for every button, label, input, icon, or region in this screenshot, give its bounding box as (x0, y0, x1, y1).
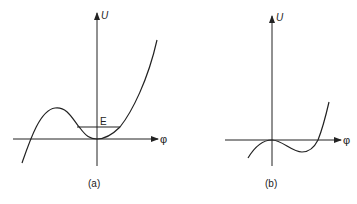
panel-a-energy-label: E (100, 116, 107, 127)
panel-b-y-axis-label: U (276, 12, 284, 23)
panel-a-x-axis-label: φ (160, 133, 167, 145)
panel-a-y-axis-label: U (101, 10, 109, 21)
panel-b: U φ (b) (225, 12, 350, 189)
panel-b-caption: (b) (265, 178, 277, 189)
diagram-canvas: E U φ (a) U φ (b) (0, 0, 357, 204)
panel-a-potential-curve (22, 40, 157, 163)
panel-b-x-axis-label: φ (343, 134, 350, 146)
panel-a-caption: (a) (88, 178, 100, 189)
panel-b-potential-curve (248, 102, 329, 158)
panel-a: E U φ (a) (13, 10, 167, 189)
